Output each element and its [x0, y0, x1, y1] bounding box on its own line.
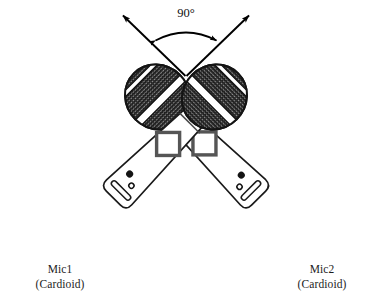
mic1-switch: [193, 132, 216, 155]
mic2-caption-pattern: (Cardioid): [276, 277, 368, 292]
mic2-switch: [157, 132, 180, 155]
mic1-caption: Mic1 (Cardioid): [14, 262, 106, 292]
mic-pair-figure: 90° Mic1 (Cardioid) Mic2 (Cardioid): [0, 0, 371, 305]
angle-arc: [156, 33, 217, 41]
mic2-caption: Mic2 (Cardioid): [276, 262, 368, 292]
mic1-caption-name: Mic1: [14, 262, 106, 277]
mic1-caption-pattern: (Cardioid): [14, 277, 106, 292]
mic-pair-diagram: 90°: [0, 0, 371, 305]
angle-label: 90°: [177, 6, 195, 20]
mic2-caption-name: Mic2: [276, 262, 368, 277]
